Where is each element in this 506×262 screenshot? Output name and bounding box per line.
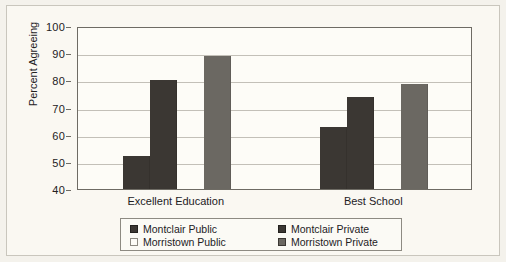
legend-swatch-icon: [278, 225, 286, 233]
y-axis-tick-mark: [66, 81, 71, 82]
bar-montclair-private-best-school: [347, 97, 374, 189]
legend-label: Montclair Public: [143, 224, 217, 235]
y-axis-tick-label: 40: [52, 184, 65, 196]
y-axis-tick-label: 100: [46, 21, 65, 33]
legend-label: Montclair Private: [291, 224, 369, 235]
legend-label: Morristown Public: [143, 237, 226, 248]
plot-area: [77, 27, 472, 190]
y-axis-tick-label: 90: [52, 48, 65, 60]
y-axis-tick-label: 70: [52, 103, 65, 115]
y-axis-tick-mark: [66, 109, 71, 110]
legend-item: Montclair Private: [278, 224, 369, 235]
x-axis-labels: Excellent EducationBest School: [77, 195, 472, 211]
legend-item: Montclair Public: [130, 224, 217, 235]
y-axis-tick-mark: [66, 190, 71, 191]
legend-swatch-icon: [278, 238, 286, 246]
legend-item: Morristown Public: [130, 237, 226, 248]
x-axis-category-label: Excellent Education: [127, 195, 224, 207]
bar-montclair-public-excellent-education: [123, 156, 150, 189]
plot-wrapper: [77, 27, 472, 190]
bar-morristown-private-excellent-education: [204, 56, 231, 189]
y-axis-tick-mark: [66, 136, 71, 137]
legend-swatch-icon: [130, 225, 138, 233]
y-axis-tick-label: 60: [52, 130, 65, 142]
y-axis-tick-label: 80: [52, 75, 65, 87]
y-axis-tick-mark: [66, 54, 71, 55]
bar-morristown-private-best-school: [401, 84, 428, 189]
chart-legend: Montclair PublicMontclair PrivateMorrist…: [120, 218, 402, 251]
y-axis-tick-mark: [66, 163, 71, 164]
y-axis: 405060708090100: [7, 27, 73, 190]
gridline: [78, 82, 471, 83]
y-axis-tick-label: 50: [52, 157, 65, 169]
y-axis-tick-mark: [66, 27, 71, 28]
bar-montclair-public-best-school: [320, 127, 347, 189]
gridline: [78, 55, 471, 56]
legend-label: Morristown Private: [291, 237, 378, 248]
legend-item: Morristown Private: [278, 237, 378, 248]
legend-swatch-icon: [130, 238, 138, 246]
y-axis-title: Percent Agreeing: [27, 4, 39, 124]
figure-frame: 405060708090100 Percent Agreeing Excelle…: [6, 5, 500, 256]
chart-figure: 405060708090100 Percent Agreeing Excelle…: [0, 0, 506, 262]
bar-montclair-private-excellent-education: [150, 80, 177, 189]
x-axis-category-label: Best School: [344, 195, 403, 207]
